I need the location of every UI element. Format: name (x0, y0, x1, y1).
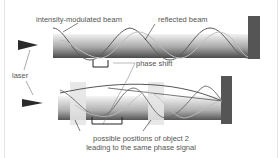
label-possible-positions-line2: leading to the same phase signal (66, 143, 216, 152)
arrow-ghost-2 (143, 120, 151, 131)
label-phase-shift: phase shift (136, 59, 172, 68)
laser-leader-bottom (26, 81, 33, 95)
bottom-setup (22, 76, 232, 131)
label-possible-positions-line1: possible positions of object 2 (66, 134, 216, 143)
label-possible-positions: possible positions of object 2 leading t… (66, 134, 216, 152)
phase-shift-leader (113, 63, 135, 78)
target-object-bottom (221, 76, 232, 124)
laser-emitter-top-icon (18, 40, 38, 50)
label-laser: laser (12, 71, 28, 80)
ghost-position-2 (148, 82, 164, 125)
label-intensity-modulated-beam: intensity-modulated beam (36, 15, 122, 24)
phase-shift-bracket (93, 60, 108, 67)
arrow-intensity-beam (63, 23, 78, 32)
target-object-top (248, 16, 260, 59)
laser-emitter-bottom-icon (22, 99, 43, 107)
top-setup (18, 16, 260, 78)
laser-leader-top (24, 50, 30, 70)
label-reflected-beam: reflected beam (158, 15, 208, 24)
